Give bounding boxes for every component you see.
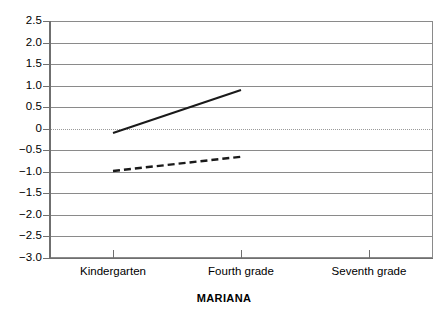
y-tick-mark [43,258,49,259]
y-tick-label: 0.5 [2,101,42,113]
y-tick-label: 0 [2,123,42,135]
y-tick-label: −1.5 [2,187,42,199]
x-tick-mark [241,250,242,258]
y-tick-label: 1.5 [2,58,42,70]
y-tick-mark [43,107,49,108]
x-tick-mark [113,250,114,258]
y-tick-label: −3.0 [2,252,42,264]
solid-series [113,90,241,133]
y-tick-mark [43,172,49,173]
y-tick-mark [43,43,49,44]
chart-container: 2.52.01.51.00.50−0.5−1.0−1.5−2.0−2.5−3.0… [0,0,448,323]
y-tick-mark [43,215,49,216]
y-tick-mark [43,64,49,65]
y-tick-mark [43,236,49,237]
x-tick-label: Seventh grade [332,265,407,278]
y-tick-label: 2.5 [2,15,42,27]
dashed-series [113,157,241,171]
x-axis-title: MARIANA [0,292,448,304]
y-tick-label: 1.0 [2,80,42,92]
y-axis-tick-labels: 2.52.01.51.00.50−0.5−1.0−1.5−2.0−2.5−3.0 [0,0,42,323]
y-tick-label: −2.5 [2,230,42,242]
y-tick-label: −2.0 [2,209,42,221]
x-tick-label: Fourth grade [208,265,274,278]
data-series-layer [49,21,433,258]
y-tick-label: −0.5 [2,144,42,156]
y-tick-mark [43,150,49,151]
x-tick-label: Kindergarten [80,265,146,278]
y-tick-mark [43,193,49,194]
x-tick-mark [369,250,370,258]
y-tick-mark [43,86,49,87]
y-tick-label: 2.0 [2,37,42,49]
x-axis-line [49,258,433,259]
y-tick-mark [43,21,49,22]
y-tick-mark [43,129,49,130]
y-tick-label: −1.0 [2,166,42,178]
